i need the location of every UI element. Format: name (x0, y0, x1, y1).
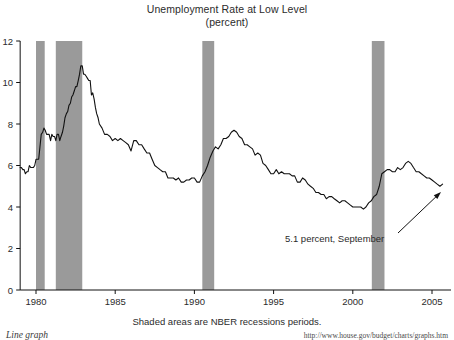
chart-container: Unemployment Rate at Low Level (percent)… (0, 0, 454, 340)
chart-plot-area: 024681012198019851990199520002005 5.1 pe… (0, 0, 454, 312)
recession-band (202, 41, 214, 290)
y-axis-tick-label: 4 (8, 202, 13, 213)
recession-shading-layer (36, 41, 384, 290)
chart-caption: Shaded areas are NBER recessions periods… (0, 316, 454, 327)
page-footer: Line graph http://www.house.gov/budget/c… (0, 330, 454, 340)
recession-band (36, 41, 45, 290)
y-axis-tick-label: 10 (3, 77, 14, 88)
y-axis-tick-label: 2 (8, 243, 13, 254)
x-axis-tick-label: 1990 (184, 296, 205, 307)
footer-type-label: Line graph (6, 330, 48, 340)
x-axis-tick-label: 2000 (342, 296, 363, 307)
y-axis-tick-label: 0 (8, 285, 13, 296)
x-axis-tick-label: 1980 (25, 296, 46, 307)
recession-band (372, 41, 385, 290)
y-axis-tick-label: 8 (8, 119, 13, 130)
x-axis-tick-label: 2005 (421, 296, 442, 307)
annotation-layer: 5.1 percent, September (285, 192, 441, 244)
y-axis-tick-label: 12 (3, 36, 14, 47)
annotation-arrow-shaft (398, 195, 437, 233)
x-axis-tick-label: 1985 (105, 296, 126, 307)
x-axis-tick-label: 1995 (263, 296, 284, 307)
y-axis-tick-label: 6 (8, 160, 13, 171)
footer-source-url[interactable]: http://www.house.gov/budget/charts/graph… (304, 331, 448, 340)
value-annotation-label: 5.1 percent, September (285, 233, 384, 244)
